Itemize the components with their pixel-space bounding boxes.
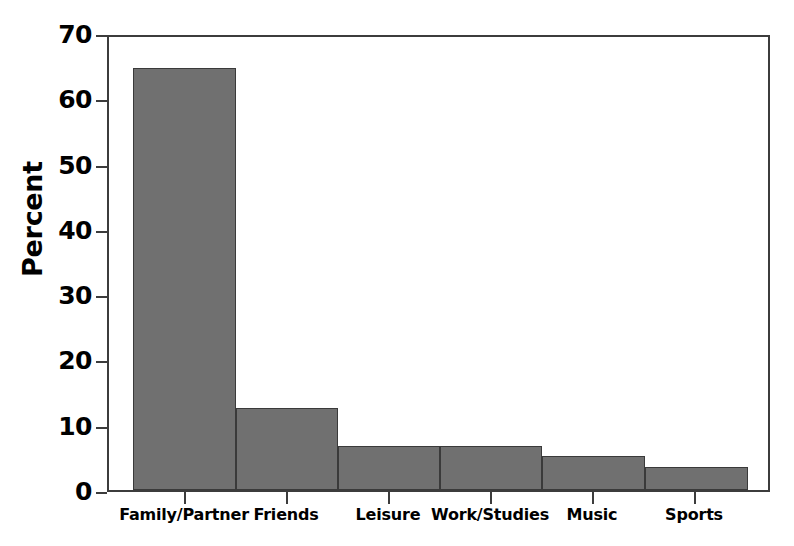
y-tick-mark (96, 361, 107, 363)
y-tick-mark (96, 166, 107, 168)
x-tick-label-family-partner: Family/Partner (119, 505, 249, 524)
y-axis-title: Percent (8, 0, 58, 492)
y-tick-mark (96, 35, 107, 37)
y-tick-label: 40 (58, 218, 92, 243)
y-tick-label: 60 (58, 87, 92, 112)
bar-family-partner (133, 68, 236, 490)
x-tick-mark (694, 492, 696, 504)
x-tick-mark (388, 492, 390, 504)
y-tick-mark (96, 492, 107, 494)
x-tick-mark (286, 492, 288, 504)
x-tick-mark (592, 492, 594, 504)
y-tick-label: 70 (58, 22, 92, 47)
bar-chart-figure: Percent 0 10 20 30 40 50 60 70 Family/Pa… (0, 0, 794, 546)
bar-friends (236, 408, 338, 490)
y-tick-mark (96, 100, 107, 102)
y-tick-mark (96, 427, 107, 429)
x-tick-label-music: Music (567, 505, 618, 524)
y-tick-mark (96, 296, 107, 298)
bar-leisure (338, 446, 440, 490)
bar-sports (645, 467, 748, 490)
y-tick-label: 0 (75, 479, 92, 504)
y-tick-label: 50 (58, 153, 92, 178)
x-tick-mark (184, 492, 186, 504)
y-tick-label: 30 (58, 283, 92, 308)
x-tick-label-friends: Friends (253, 505, 318, 524)
bar-work-studies (440, 446, 542, 490)
x-tick-label-work-studies: Work/Studies (431, 505, 549, 524)
y-tick-mark (96, 231, 107, 233)
plot-area (107, 35, 770, 492)
bars-layer (109, 37, 768, 490)
x-tick-label-leisure: Leisure (356, 505, 421, 524)
x-tick-label-sports: Sports (665, 505, 723, 524)
y-tick-label: 20 (58, 348, 92, 373)
x-tick-mark (490, 492, 492, 504)
y-tick-label: 10 (58, 414, 92, 439)
bar-music (542, 456, 645, 490)
